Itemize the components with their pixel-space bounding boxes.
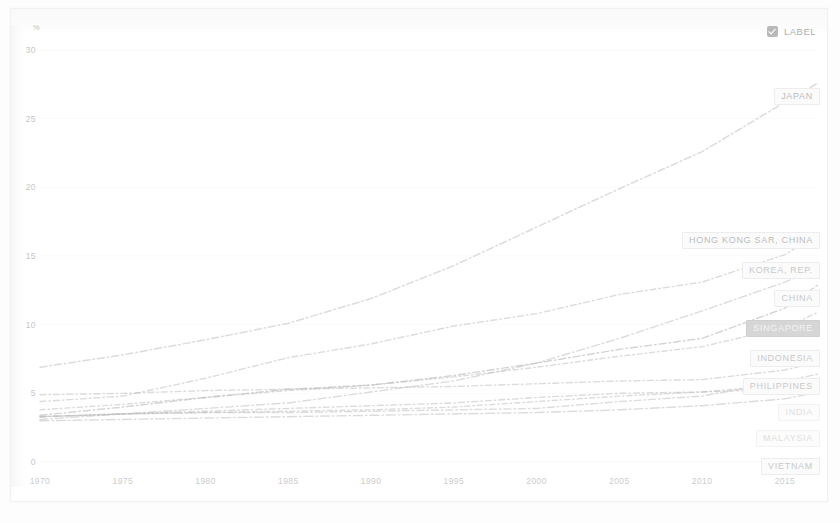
y-axis-unit: % — [33, 23, 40, 32]
y-tick-label: 15 — [26, 251, 36, 261]
series-line — [40, 374, 818, 417]
label-toggle[interactable]: LABEL — [767, 26, 816, 37]
x-tick-label: 1970 — [30, 476, 51, 486]
x-tick-label: 1995 — [444, 476, 465, 486]
y-tick-label: 0 — [31, 457, 36, 467]
series-label-indonesia[interactable]: INDONESIA — [750, 350, 820, 367]
y-tick-label: 10 — [26, 320, 36, 330]
series-label-china[interactable]: CHINA — [774, 290, 820, 307]
x-tick-label: 2015 — [775, 476, 796, 486]
series-label-singapore[interactable]: SINGAPORE — [746, 320, 820, 337]
series-label-japan[interactable]: JAPAN — [774, 88, 820, 105]
gridlines-group — [40, 50, 818, 462]
series-label-korea-rep[interactable]: KOREA, REP. — [742, 262, 820, 279]
checkbox-checked-icon[interactable] — [767, 26, 778, 37]
x-tick-label: 1980 — [195, 476, 216, 486]
series-line — [40, 312, 818, 410]
series-label-hong-kong-sar-china[interactable]: HONG KONG SAR, CHINA — [682, 232, 820, 249]
series-line — [40, 285, 818, 415]
y-tick-label: 25 — [26, 114, 36, 124]
series-lines-group — [40, 83, 818, 421]
series-line — [40, 380, 818, 417]
x-tick-label: 2000 — [526, 476, 547, 486]
x-axis-ticks-group: 1970197519801985199019952000200520102015 — [30, 476, 795, 486]
y-tick-label: 30 — [26, 45, 36, 55]
chart-page: 302520151050 197019751980198519901995200… — [0, 0, 840, 523]
series-label-vietnam[interactable]: VIETNAM — [761, 458, 820, 475]
x-tick-label: 2010 — [692, 476, 713, 486]
x-tick-label: 2005 — [609, 476, 630, 486]
y-axis-ticks-group: 302520151050 — [26, 45, 36, 467]
series-label-india[interactable]: INDIA — [778, 404, 820, 421]
series-label-malaysia[interactable]: MALAYSIA — [756, 430, 820, 447]
series-line — [40, 268, 818, 419]
series-label-philippines[interactable]: PHILIPPINES — [743, 378, 820, 395]
label-toggle-text: LABEL — [784, 26, 816, 37]
x-tick-label: 1990 — [361, 476, 382, 486]
line-chart-svg: 302520151050 197019751980198519901995200… — [0, 0, 840, 523]
x-tick-label: 1975 — [113, 476, 134, 486]
series-line — [40, 234, 818, 402]
y-tick-label: 20 — [26, 182, 36, 192]
y-tick-label: 5 — [31, 388, 36, 398]
x-tick-label: 1985 — [278, 476, 299, 486]
